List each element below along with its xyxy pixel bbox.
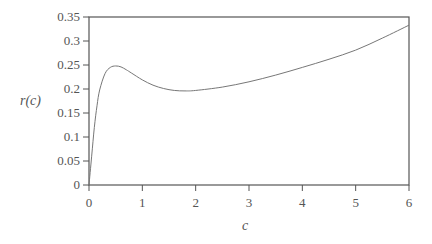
y-axis-label: r(c) [20, 93, 41, 109]
data-line-r-of-c [89, 25, 409, 185]
y-tick-label: 0.25 [57, 57, 80, 72]
x-axis-label: c [242, 218, 249, 233]
x-tick-label: 3 [246, 195, 253, 210]
y-tick-label: 0.2 [64, 81, 80, 96]
y-tick-label: 0.3 [64, 33, 80, 48]
y-tick-label: 0.15 [57, 105, 80, 120]
y-tick-label: 0 [74, 177, 81, 192]
y-tick-label: 0.1 [64, 129, 80, 144]
line-chart: 00.050.10.150.20.250.30.35 0123456 r(c) … [0, 0, 432, 244]
x-tick-label: 5 [352, 195, 359, 210]
plot-frame [89, 17, 409, 185]
x-tick-label: 0 [86, 195, 93, 210]
x-tick-label: 6 [406, 195, 413, 210]
x-axis: 0123456 [86, 185, 413, 210]
x-tick-label: 2 [192, 195, 199, 210]
x-tick-label: 4 [299, 195, 306, 210]
y-axis: 00.050.10.150.20.250.30.35 [57, 9, 89, 192]
y-tick-label: 0.35 [57, 9, 80, 24]
x-tick-label: 1 [139, 195, 146, 210]
y-tick-label: 0.05 [57, 153, 80, 168]
